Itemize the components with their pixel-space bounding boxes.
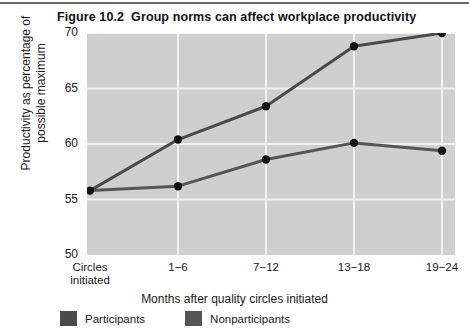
data-point-marker[interactable] <box>350 139 358 147</box>
figure-title: Figure 10.2Group norms can affect workpl… <box>57 10 457 24</box>
gridline-vertical <box>441 33 443 255</box>
x-tick-label-line: 19−24 <box>426 261 458 274</box>
chart-legend: Participants Nonparticipants <box>60 311 290 326</box>
top-rule-divider <box>0 2 469 4</box>
plot-area <box>87 33 455 255</box>
y-tick-label: 50 <box>44 247 78 261</box>
legend-label-participants: Participants <box>85 313 145 325</box>
gridline-horizontal <box>87 33 455 34</box>
x-tick-label-line: 1−6 <box>168 261 188 274</box>
data-point-marker[interactable] <box>262 155 270 163</box>
x-tick-label: 13−18 <box>338 261 370 274</box>
gridline-vertical <box>265 33 267 255</box>
x-axis-label: Months after quality circles initiated <box>0 292 469 306</box>
gridline-horizontal <box>87 199 455 201</box>
x-tick-label-line: Circles <box>70 261 110 274</box>
figure-number: Figure 10.2 <box>57 10 124 24</box>
legend-swatch-participants <box>60 311 77 326</box>
data-point-marker[interactable] <box>438 33 446 37</box>
gridline-horizontal <box>87 143 455 145</box>
x-tick-label: 1−6 <box>168 261 188 274</box>
data-point-marker[interactable] <box>174 135 182 143</box>
x-tick-label-line: 7−12 <box>253 261 279 274</box>
y-axis-label: Productivity as percentage of possible m… <box>19 0 49 188</box>
data-point-marker[interactable] <box>174 182 182 190</box>
y-tick-label: 65 <box>44 81 78 95</box>
x-tick-label: 19−24 <box>426 261 458 274</box>
legend-swatch-nonparticipants <box>185 311 202 326</box>
figure-title-text: Group norms can affect workplace product… <box>131 10 416 24</box>
x-tick-label: Circlesinitiated <box>70 261 110 287</box>
legend-item-nonparticipants[interactable]: Nonparticipants <box>185 311 290 326</box>
y-tick-label: 55 <box>44 192 78 206</box>
x-tick-label-line: initiated <box>70 274 110 287</box>
gridline-vertical <box>177 33 179 255</box>
data-point-marker[interactable] <box>350 42 358 50</box>
data-point-marker[interactable] <box>438 146 446 154</box>
y-tick-label: 60 <box>44 136 78 150</box>
x-tick-label-line: 13−18 <box>338 261 370 274</box>
legend-item-participants[interactable]: Participants <box>60 311 145 326</box>
data-point-marker[interactable] <box>262 102 270 110</box>
legend-label-nonparticipants: Nonparticipants <box>210 313 290 325</box>
x-tick-label: 7−12 <box>253 261 279 274</box>
line-chart-svg <box>87 33 455 255</box>
gridline-horizontal <box>87 88 455 90</box>
figure-container: Figure 10.2Group norms can affect workpl… <box>0 0 469 333</box>
y-tick-label: 70 <box>44 25 78 39</box>
